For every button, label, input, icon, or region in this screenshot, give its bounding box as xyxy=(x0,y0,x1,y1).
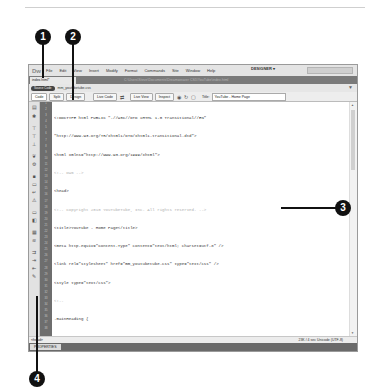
indent-code-icon[interactable]: ⇥ xyxy=(31,258,37,263)
page-rule xyxy=(25,7,365,8)
document-tab-label: index.html* xyxy=(32,78,49,82)
live-code-button[interactable]: Live Code xyxy=(93,93,117,101)
related-files-bar: Source Code mm_youtubetube.css ▼ xyxy=(29,84,357,92)
help-search-input[interactable] xyxy=(307,67,353,74)
menu-site[interactable]: Site xyxy=(172,68,179,73)
code-line: <link rel="stylesheet" href="mm_youtubet… xyxy=(54,261,349,267)
source-code-button[interactable]: Source Code xyxy=(31,86,55,91)
apply-comment-icon[interactable]: ▭ xyxy=(31,210,37,215)
word-wrap-icon[interactable]: ↵ xyxy=(31,190,37,195)
split-view-button[interactable]: Split xyxy=(49,93,64,101)
code-line: <head> xyxy=(54,188,349,194)
callout-1-line xyxy=(42,42,44,78)
select-parent-tag-icon[interactable]: ❦ xyxy=(31,154,37,159)
callout-2: 2 xyxy=(65,29,81,45)
design-view-button[interactable]: Design xyxy=(66,93,85,101)
menu-help[interactable]: Help xyxy=(207,68,215,73)
callout-1: 1 xyxy=(35,29,51,45)
code-line: <!-- DW6 --> xyxy=(54,170,349,176)
code-line: <html xmlns="http://www.w3.org/1999/xhtm… xyxy=(54,152,349,158)
collapse-selection-icon[interactable]: ⊤ xyxy=(31,134,37,139)
code-line: <style type="text/css"> xyxy=(54,280,349,286)
scroll-up-icon[interactable]: ▲ xyxy=(351,103,354,107)
outdent-code-icon[interactable]: ⇤ xyxy=(31,266,37,271)
code-content[interactable]: <!DOCTYPE html PUBLIC "-//W3C//DTD XHTML… xyxy=(54,103,349,336)
title-label: Title: xyxy=(202,95,209,99)
code-line: <!-- xyxy=(54,298,349,304)
code-line: <title>YouTube - Home Page</title> xyxy=(54,225,349,231)
document-tab[interactable]: index.html* × xyxy=(30,77,76,84)
show-code-navigator-icon[interactable]: ✱ xyxy=(31,114,37,119)
properties-tab[interactable]: PROPERTIES xyxy=(30,344,61,350)
app-logo: Dw xyxy=(32,68,41,74)
document-toolbar: Code Split Design Live Code ⇄ Live View … xyxy=(29,92,357,102)
inspect-button[interactable]: Inspect xyxy=(155,93,174,101)
open-documents-icon[interactable]: ▤ xyxy=(31,105,37,110)
vertical-scrollbar[interactable]: ▲ ▼ xyxy=(349,102,357,336)
format-source-icon[interactable]: ✎ xyxy=(31,274,37,279)
inspect-mode-icon[interactable]: ⇄ xyxy=(120,94,124,100)
callout-3: 3 xyxy=(335,200,351,216)
menu-insert[interactable]: Insert xyxy=(89,68,99,73)
properties-panel-bar: PROPERTIES xyxy=(29,343,357,351)
collapse-tag-icon[interactable]: ⊤ xyxy=(31,126,37,131)
line-number-gutter: 1234567891011121314151617181920212223242… xyxy=(40,102,52,336)
remove-comment-icon[interactable]: ◧ xyxy=(31,218,37,223)
view-options-icon[interactable]: ▢ xyxy=(191,94,196,100)
code-line: .mainHeading { xyxy=(54,316,349,322)
callout-4: 4 xyxy=(29,371,45,387)
live-view-button[interactable]: Live View xyxy=(130,93,153,101)
document-path: C:\Users\Steve\Documents\Dreamweaver CS5… xyxy=(124,76,228,84)
title-input[interactable]: YouTube - Home Page xyxy=(212,93,286,101)
document-tab-bar: index.html* × C:\Users\Steve\Documents\D… xyxy=(29,76,357,84)
scrollbar-thumb[interactable] xyxy=(351,110,355,170)
code-editor[interactable]: ▤ ✱ ⊤ ⊤ ⊥ ❦ ⚙ ■ ▭ ↵ ⚠ ▭ ◧ ▦ ≋ ⇉ ⇥ ⇤ ✎ 12… xyxy=(29,102,357,336)
filter-icon[interactable]: ▼ xyxy=(348,84,353,90)
coding-toolbar: ▤ ✱ ⊤ ⊤ ⊥ ❦ ⚙ ■ ▭ ↵ ⚠ ▭ ◧ ▦ ≋ ⇉ ⇥ ⇤ ✎ xyxy=(29,102,40,336)
highlight-invalid-code-icon[interactable]: ▭ xyxy=(31,182,37,187)
related-file-css[interactable]: mm_youtubetube.css xyxy=(58,86,91,90)
menu-format[interactable]: Format xyxy=(125,68,138,73)
menu-commands[interactable]: Commands xyxy=(144,68,164,73)
scroll-down-icon[interactable]: ▼ xyxy=(351,331,354,335)
syntax-error-icon[interactable]: ⚠ xyxy=(31,198,37,203)
callout-2-line xyxy=(72,42,74,100)
code-line: <meta http-equiv="Content-Type" content=… xyxy=(54,243,349,249)
refresh-icon[interactable]: ↻ xyxy=(184,94,188,100)
menu-bar: Dw File Edit View Insert Modify Format C… xyxy=(29,65,357,76)
menu-edit[interactable]: Edit xyxy=(59,68,66,73)
line-numbers-icon[interactable]: ■ xyxy=(31,174,37,179)
callout-3-line xyxy=(281,207,337,209)
wrap-tag-icon[interactable]: ▦ xyxy=(31,230,37,235)
move-css-icon[interactable]: ⇉ xyxy=(31,250,37,255)
menu-modify[interactable]: Modify xyxy=(106,68,118,73)
menu-view[interactable]: View xyxy=(73,68,82,73)
recent-snippets-icon[interactable]: ≋ xyxy=(31,238,37,243)
browser-preview-icon[interactable]: ◉ xyxy=(177,94,181,100)
workspace-switcher[interactable]: DESIGNER ▾ xyxy=(251,66,275,71)
code-line: "http://www.w3.org/TR/xhtml1/DTD/xhtml1-… xyxy=(54,133,349,139)
code-view-button[interactable]: Code xyxy=(31,93,47,101)
menu-file[interactable]: File xyxy=(46,68,52,73)
callout-4-line xyxy=(36,296,38,374)
expand-all-icon[interactable]: ⊥ xyxy=(31,142,37,147)
balance-braces-icon[interactable]: ⚙ xyxy=(31,162,37,167)
code-line: <!DOCTYPE html PUBLIC "-//W3C//DTD XHTML… xyxy=(54,115,349,121)
menu-window[interactable]: Window xyxy=(186,68,200,73)
